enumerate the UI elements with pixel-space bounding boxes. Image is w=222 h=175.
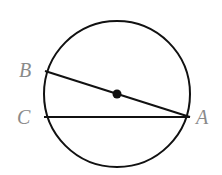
label-a: A	[194, 106, 209, 128]
circle-diagram: B C A	[0, 0, 222, 175]
label-c: C	[17, 106, 31, 128]
label-b: B	[19, 59, 31, 81]
center-point	[113, 90, 122, 99]
